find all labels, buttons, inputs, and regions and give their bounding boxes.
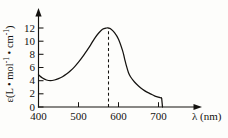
y-tick-label-6: 6 (30, 61, 36, 73)
x-axis-ticks (39, 102, 159, 107)
y-axis-label: ε(L • mol-1 • cm-1) (2, 25, 16, 102)
y-tick-label-10: 10 (24, 35, 36, 47)
y-tick-label-12: 12 (24, 22, 35, 34)
y-tick-label-8: 8 (30, 48, 36, 60)
y-axis-tick-labels: 0 2 4 6 8 10 12 (24, 22, 36, 113)
chart-canvas: ε(L • mol-1 • cm-1) 0 2 4 6 8 (0, 0, 228, 138)
y-axis-label-mid: • cm (4, 35, 15, 57)
x-tick-label-500: 500 (70, 110, 87, 122)
x-tick-label-600: 600 (110, 110, 127, 122)
y-axis-label-main: ε(L • mol (4, 63, 16, 102)
x-axis-symbol: λ (192, 110, 198, 122)
y-axis-label-close: ) (4, 25, 16, 29)
x-tick-label-400: 400 (30, 110, 47, 122)
y-axis-ticks (39, 28, 44, 107)
absorption-spectrum-figure: ε(L • mol-1 • cm-1) 0 2 4 6 8 (0, 0, 228, 138)
y-tick-label-2: 2 (30, 87, 36, 99)
y-axis-arrow-icon (35, 8, 41, 17)
y-tick-label-4: 4 (30, 74, 36, 86)
svg-text:ε(L • mol-1 • cm-1): ε(L • mol-1 • cm-1) (2, 25, 16, 102)
spectrum-curve (39, 28, 163, 107)
x-axis-unit: (nm) (200, 110, 222, 123)
x-tick-label-700: 700 (150, 110, 167, 122)
x-axis-label: λ (nm) (192, 110, 222, 123)
x-axis-tick-labels: 400 500 600 700 (30, 110, 167, 122)
